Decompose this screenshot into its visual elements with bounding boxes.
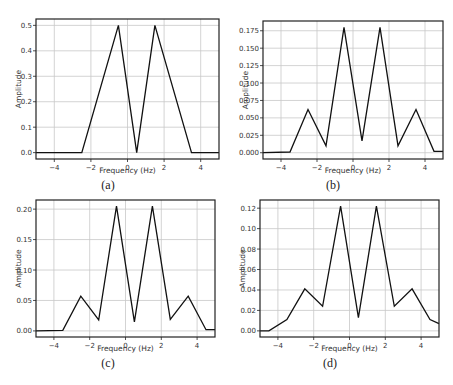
x-axis-label: Frequency (Hz) <box>325 166 382 175</box>
x-tick-label: −2 <box>86 164 96 172</box>
subplot-d: −4−20240.000.020.040.060.080.100.12Frequ… <box>238 200 439 353</box>
y-tick-label: 0.175 <box>239 27 259 35</box>
y-tick-label: 0.1 <box>21 124 32 132</box>
x-tick-label: −2 <box>312 164 322 172</box>
x-tick-label: −4 <box>49 164 60 172</box>
x-tick-label: 4 <box>423 164 428 172</box>
y-tick-label: 0.12 <box>240 205 256 213</box>
x-tick-label: −2 <box>309 342 319 350</box>
y-tick-label: 0.05 <box>16 297 32 305</box>
x-tick-label: 4 <box>419 342 424 350</box>
x-tick-label: 2 <box>159 342 163 350</box>
x-tick-label: −4 <box>276 164 287 172</box>
y-tick-label: 0.0 <box>21 149 32 157</box>
subplots-canvas: −4−20240.00.10.20.30.40.5Frequency (Hz)A… <box>0 0 453 385</box>
x-tick-label: −4 <box>49 342 60 350</box>
caption-a: (a) <box>88 178 128 193</box>
caption-d: (d) <box>310 356 350 371</box>
y-axis-label: Amplitude <box>241 70 250 109</box>
y-tick-label: 0.025 <box>239 132 259 140</box>
y-tick-label: 0.15 <box>16 236 32 244</box>
y-tick-label: 0.02 <box>240 307 256 315</box>
subplot-b: −4−20240.0000.0250.0500.0750.1000.1250.1… <box>239 21 443 175</box>
y-tick-label: 0.00 <box>16 327 32 335</box>
y-tick-label: 0.4 <box>21 47 33 55</box>
x-tick-label: 2 <box>162 164 166 172</box>
x-tick-label: 2 <box>387 164 391 172</box>
y-tick-label: 0.050 <box>239 114 259 122</box>
y-tick-label: 0.10 <box>240 225 256 233</box>
x-tick-label: −2 <box>85 342 95 350</box>
x-tick-label: −4 <box>273 342 284 350</box>
x-axis-label: Frequency (Hz) <box>321 344 378 353</box>
x-tick-label: 2 <box>383 342 387 350</box>
y-tick-label: 0.20 <box>16 206 32 214</box>
y-tick-label: 0.00 <box>240 327 256 335</box>
x-axis-label: Frequency (Hz) <box>99 166 156 175</box>
y-tick-label: 0.125 <box>239 62 259 70</box>
y-axis-label: Amplitude <box>238 249 247 288</box>
subplot-c: −4−20240.000.050.100.150.20Frequency (Hz… <box>14 200 215 353</box>
x-tick-label: 4 <box>198 164 203 172</box>
y-axis-label: Amplitude <box>14 69 23 108</box>
x-axis-label: Frequency (Hz) <box>97 344 154 353</box>
y-tick-label: 0.150 <box>239 45 259 53</box>
subplot-a: −4−20240.00.10.20.30.40.5Frequency (Hz)A… <box>14 19 219 175</box>
x-tick-label: 4 <box>195 342 200 350</box>
caption-b: (b) <box>313 178 353 193</box>
caption-c: (c) <box>88 356 128 371</box>
y-tick-label: 0.000 <box>239 149 259 157</box>
y-tick-label: 0.5 <box>21 22 32 30</box>
y-axis-label: Amplitude <box>14 249 23 288</box>
